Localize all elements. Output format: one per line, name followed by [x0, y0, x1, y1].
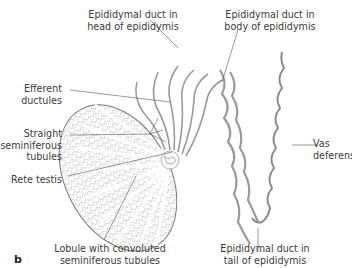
panel-letter: b: [14, 253, 22, 266]
label-epididymal-duct-head: Epididymal duct in head of epididymis: [63, 9, 203, 32]
label-straight-seminiferous-tubules: Straight seminiferous tubules: [0, 128, 62, 163]
label-epididymal-duct-tail: Epididymal duct in tail of epididymis: [205, 243, 325, 266]
label-vas-deferens: Vas deferens: [313, 138, 352, 161]
label-rete-testis: Rete testis: [0, 174, 62, 186]
vas-deferens: [252, 52, 284, 223]
epididymis-diagram: Epididymal duct in head of epididymis Ep…: [0, 0, 352, 268]
label-epididymal-duct-body: Epididymal duct in body of epididymis: [210, 9, 330, 32]
label-lobule: Lobule with convoluted seminiferous tubu…: [40, 243, 180, 266]
label-efferent-ductules: Efferent ductules: [0, 83, 62, 106]
